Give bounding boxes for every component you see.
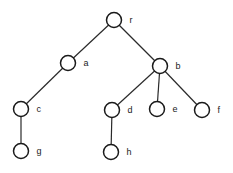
- node-circle: [14, 102, 29, 117]
- node-circle: [107, 13, 122, 28]
- node-label: f: [218, 105, 221, 115]
- node-label: d: [128, 105, 133, 115]
- edge-r-a: [68, 20, 114, 63]
- node-h: h: [104, 145, 132, 160]
- node-circle: [150, 102, 165, 117]
- node-label: r: [130, 15, 133, 25]
- node-a: a: [61, 56, 89, 71]
- node-g: g: [14, 144, 42, 159]
- edges-group: [21, 20, 202, 152]
- edge-b-f: [160, 66, 202, 110]
- node-c: c: [14, 102, 42, 117]
- edge-a-c: [21, 63, 68, 109]
- node-r: r: [107, 13, 133, 28]
- node-circle: [195, 103, 210, 118]
- node-b: b: [153, 59, 181, 74]
- node-label: e: [173, 104, 178, 114]
- node-e: e: [150, 102, 178, 117]
- node-label: c: [37, 104, 42, 114]
- node-circle: [14, 144, 29, 159]
- node-label: h: [127, 147, 132, 157]
- node-circle: [105, 103, 120, 118]
- edge-r-b: [114, 20, 160, 66]
- node-circle: [153, 59, 168, 74]
- node-label: b: [176, 61, 181, 71]
- tree-diagram: rabcdefgh: [0, 0, 233, 173]
- node-circle: [104, 145, 119, 160]
- node-circle: [61, 56, 76, 71]
- node-f: f: [195, 103, 221, 118]
- node-label: a: [84, 58, 89, 68]
- node-label: g: [37, 146, 42, 156]
